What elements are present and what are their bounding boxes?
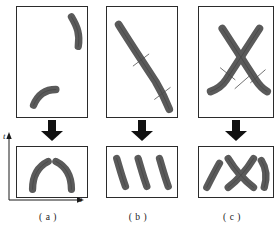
panel-c-top — [198, 6, 274, 118]
flow-arrow-b — [129, 120, 155, 142]
panel-b-bottom — [106, 146, 178, 198]
tick-mark-center — [235, 76, 250, 89]
caption-a: ( a ) — [2, 212, 94, 222]
panel-c-top-canvas — [199, 7, 273, 117]
down-arrow-icon — [223, 120, 249, 142]
panel-a-top-canvas — [17, 7, 87, 117]
panel-c-bottom-canvas — [199, 147, 273, 197]
panel-a-top — [16, 6, 88, 118]
stroke-flank-left-outline — [207, 163, 220, 187]
x-axis-label: x — [78, 194, 82, 204]
t-axis-arrowhead — [6, 132, 11, 139]
figure-column-c: ( c ) — [182, 0, 274, 240]
panel-b-top-canvas — [107, 7, 177, 117]
flow-arrow-c — [223, 120, 249, 142]
stroke-down-left — [211, 29, 260, 92]
panel-c-bottom — [198, 146, 274, 198]
figure-root: ( a ) — [0, 0, 280, 240]
caption-b: ( b ) — [92, 212, 184, 222]
panel-b-top — [106, 6, 178, 118]
t-axis-label: t — [3, 131, 6, 141]
down-arrow-icon — [129, 120, 155, 142]
caption-c: ( c ) — [186, 212, 278, 222]
panel-b-bottom-canvas — [107, 147, 177, 197]
figure-column-b: ( b ) — [92, 0, 184, 240]
